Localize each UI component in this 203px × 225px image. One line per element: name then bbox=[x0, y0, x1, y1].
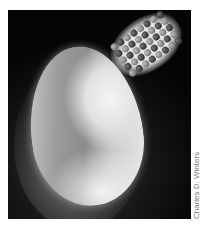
photo-credit: Charles D. Winters bbox=[191, 129, 203, 219]
